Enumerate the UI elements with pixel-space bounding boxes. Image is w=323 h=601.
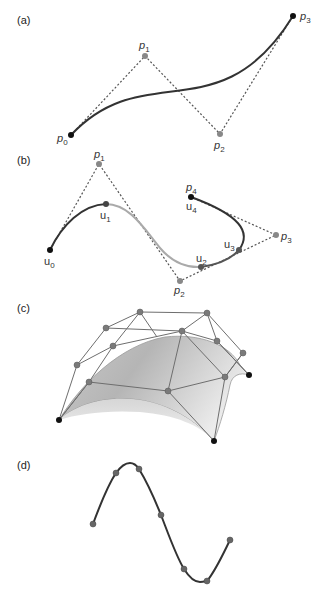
control-polygon-a [71, 16, 293, 135]
knot-u0 [47, 247, 53, 253]
label-b-p2: p2 [173, 284, 185, 299]
interpolation-points [90, 466, 233, 584]
label-a-p0: p0 [56, 132, 68, 147]
panel-label-c: (c) [17, 302, 30, 314]
knot-u3 [236, 247, 242, 253]
label-b-p4: p4 [185, 181, 197, 196]
spline-segment-2 [106, 204, 201, 267]
control-point-p3-b [273, 232, 279, 238]
label-b-u2: u2 [196, 252, 207, 267]
control-polygon-b [50, 164, 276, 281]
label-b-p3: p3 [280, 230, 292, 245]
bezier-curve-a [71, 16, 293, 135]
label-a-p3: p3 [299, 10, 311, 25]
control-point-p2 [217, 131, 223, 137]
panel-c: (c) [17, 302, 252, 444]
panel-d: (d) [17, 459, 233, 584]
panel-label-d: (d) [17, 459, 30, 471]
spline-segment-4 [191, 197, 244, 250]
diagram-canvas: (a) p0 p1 p2 p3 (b) p1 u1 u0 [0, 0, 323, 601]
label-b-u0: u0 [44, 255, 55, 270]
control-point-p0 [68, 132, 74, 138]
label-a-p2: p2 [213, 139, 225, 154]
spline-segment-1 [50, 204, 106, 250]
label-b-u1: u1 [100, 209, 111, 224]
control-point-p3 [290, 13, 296, 19]
label-b-u4: u4 [186, 200, 197, 215]
label-b-u3: u3 [224, 238, 235, 253]
panel-a: (a) p0 p1 p2 p3 [17, 10, 311, 154]
label-a-p1: p1 [138, 39, 150, 54]
panel-label-b: (b) [17, 154, 30, 166]
panel-label-a: (a) [17, 14, 30, 26]
panel-b: (b) p1 u1 u0 p2 u2 u3 p3 p4 u4 [17, 148, 292, 299]
interpolating-curve [93, 463, 230, 582]
knot-u1 [103, 201, 109, 207]
label-b-p1: p1 [93, 148, 105, 163]
